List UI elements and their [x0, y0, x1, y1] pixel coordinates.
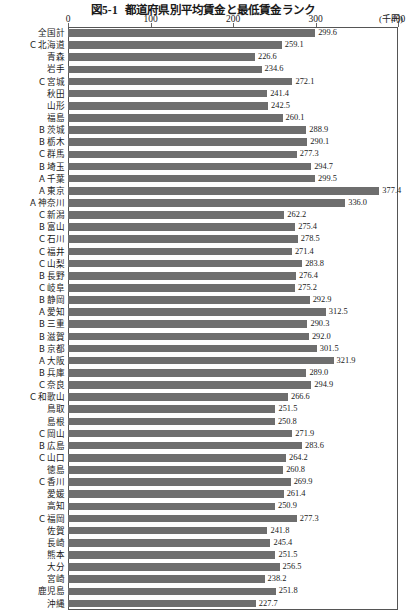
minimum-wage-rank-badge: B — [39, 368, 45, 378]
row-label-奈良: C奈良 — [0, 379, 65, 391]
bar-栃木 — [68, 138, 307, 146]
row-label-新潟: C新潟 — [0, 209, 65, 221]
bar-岩手 — [68, 66, 262, 74]
bar-富山 — [68, 223, 295, 231]
bar-row: C奈良294.9 — [0, 379, 406, 391]
row-label-山口: C山口 — [0, 452, 65, 464]
prefecture-name: 広島 — [47, 441, 65, 451]
bar-value-label: 251.8 — [276, 585, 298, 597]
bar-row: C新潟262.2 — [0, 209, 406, 221]
bar-row: 大分256.5 — [0, 561, 406, 573]
bar-value-label: 294.7 — [311, 161, 333, 173]
bar-row: B埼玉294.7 — [0, 161, 406, 173]
row-label-佐賀: 佐賀 — [0, 525, 65, 537]
bar-福岡 — [68, 515, 297, 523]
bar-value-label: 266.6 — [288, 391, 310, 403]
bar-row: 佐賀241.8 — [0, 525, 406, 537]
prefecture-name: 宮崎 — [47, 574, 65, 584]
bar-row: B京都301.5 — [0, 343, 406, 355]
row-label-石川: C石川 — [0, 233, 65, 245]
minimum-wage-rank-badge: C — [39, 247, 45, 257]
bar-福井 — [68, 248, 292, 256]
bar-row: 全国計299.6 — [0, 27, 406, 39]
prefecture-name: 岐阜 — [47, 283, 65, 293]
bar-row: 熊本251.5 — [0, 549, 406, 561]
bar-山形 — [68, 102, 268, 110]
bar-高知 — [68, 503, 275, 511]
figure-number: 図5-1 — [91, 4, 118, 16]
minimum-wage-rank-badge: C — [39, 477, 45, 487]
bar-row: C福井271.4 — [0, 246, 406, 258]
bar-value-label: 294.9 — [311, 379, 333, 391]
bar-row: B栃木290.1 — [0, 136, 406, 148]
row-label-栃木: B栃木 — [0, 136, 65, 148]
minimum-wage-rank-badge: A — [39, 356, 45, 366]
prefecture-name: 茨城 — [47, 125, 65, 135]
minimum-wage-rank-badge: C — [39, 234, 45, 244]
bar-北海道 — [68, 41, 282, 49]
bar-value-label: 260.1 — [283, 112, 305, 124]
prefecture-name: 愛媛 — [47, 489, 65, 499]
bar-row: B静岡292.9 — [0, 294, 406, 306]
bar-row: C山口264.2 — [0, 452, 406, 464]
row-label-京都: B京都 — [0, 343, 65, 355]
bar-value-label: 251.5 — [275, 403, 297, 415]
bar-value-label: 289.0 — [306, 367, 328, 379]
bar-value-label: 290.3 — [307, 318, 329, 330]
bar-value-label: 250.9 — [275, 500, 297, 512]
minimum-wage-rank-badge: C — [39, 380, 45, 390]
prefecture-name: 福井 — [47, 247, 65, 257]
prefecture-name: 愛知 — [47, 307, 65, 317]
bar-群馬 — [68, 151, 297, 159]
prefecture-name: 長野 — [47, 271, 65, 281]
bar-大阪 — [68, 357, 334, 365]
bar-千葉 — [68, 175, 315, 183]
minimum-wage-rank-badge: B — [39, 295, 45, 305]
bar-value-label: 269.9 — [291, 476, 313, 488]
bar-宮城 — [68, 78, 292, 86]
bar-京都 — [68, 345, 317, 353]
prefecture-name: 新潟 — [47, 210, 65, 220]
bar-value-label: 299.6 — [315, 27, 337, 39]
row-label-群馬: C群馬 — [0, 148, 65, 160]
bar-value-label: 271.9 — [292, 428, 314, 440]
bar-value-label: 301.5 — [317, 343, 339, 355]
bar-value-label: 321.9 — [334, 355, 356, 367]
row-label-宮城: C宮城 — [0, 76, 65, 88]
row-label-大阪: A大阪 — [0, 355, 65, 367]
row-label-岩手: 岩手 — [0, 63, 65, 75]
prefecture-name: 埼玉 — [47, 162, 65, 172]
bar-row: C岡山271.9 — [0, 428, 406, 440]
bar-row: 徳島260.8 — [0, 464, 406, 476]
bar-value-label: 277.3 — [297, 513, 319, 525]
bar-row: 鳥取251.5 — [0, 403, 406, 415]
prefecture-name: 宮城 — [47, 77, 65, 87]
bar-value-label: 261.4 — [284, 488, 306, 500]
bar-row: C岐阜275.2 — [0, 282, 406, 294]
row-label-香川: C香川 — [0, 476, 65, 488]
row-label-徳島: 徳島 — [0, 464, 65, 476]
prefecture-name: 沖縄 — [47, 599, 65, 609]
prefecture-name: 福島 — [47, 113, 65, 123]
chart-page: 図5-1都道府県別平均賃金と最低賃金ランク (千円) 0100200300400… — [0, 0, 406, 614]
prefecture-name: 岩手 — [47, 64, 65, 74]
prefecture-name: 島根 — [47, 417, 65, 427]
bar-愛媛 — [68, 490, 284, 498]
row-label-大分: 大分 — [0, 561, 65, 573]
bar-宮崎 — [68, 575, 265, 583]
bar-value-label: 272.1 — [292, 76, 314, 88]
bar-value-label: 290.1 — [307, 136, 329, 148]
minimum-wage-rank-badge: B — [39, 332, 45, 342]
bar-兵庫 — [68, 369, 306, 377]
bar-鳥取 — [68, 405, 275, 413]
bar-和歌山 — [68, 393, 288, 401]
prefecture-name: 山口 — [47, 453, 65, 463]
bar-神奈川 — [68, 199, 345, 207]
prefecture-name: 佐賀 — [47, 526, 65, 536]
row-label-埼玉: B埼玉 — [0, 161, 65, 173]
row-label-全国計: 全国計 — [0, 27, 65, 39]
row-label-東京: A東京 — [0, 185, 65, 197]
bar-row: B滋賀292.0 — [0, 331, 406, 343]
bar-value-label: 276.4 — [296, 270, 318, 282]
bar-岐阜 — [68, 284, 295, 292]
